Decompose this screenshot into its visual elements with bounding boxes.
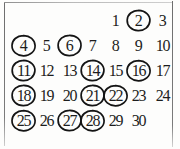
calendar-day-cell[interactable]: 12 bbox=[35, 58, 58, 83]
calendar-week-row: 252627282930 bbox=[6, 108, 171, 133]
calendar-day-cell[interactable]: 30 bbox=[127, 108, 150, 133]
calendar-day-number: 13 bbox=[58, 58, 81, 83]
calendar-day-cell[interactable]: 28 bbox=[81, 108, 104, 133]
calendar-day-number: 25 bbox=[12, 108, 35, 133]
calendar-day-number: 29 bbox=[104, 108, 127, 133]
calendar-day-cell[interactable]: 15 bbox=[104, 58, 127, 83]
calendar-day-cell[interactable]: 8 bbox=[104, 33, 127, 58]
calendar-day-cell[interactable]: 11 bbox=[12, 58, 35, 83]
page-rule-top bbox=[4, 2, 173, 3]
calendar-week-row: 18192021222324 bbox=[6, 83, 171, 108]
calendar-day-cell[interactable]: 5 bbox=[35, 33, 58, 58]
calendar-day-cell[interactable]: 10 bbox=[151, 33, 174, 58]
calendar-day-number: 20 bbox=[58, 83, 81, 108]
calendar-day-number: 15 bbox=[104, 58, 127, 83]
calendar-day-number: 30 bbox=[127, 108, 150, 133]
calendar-day-number: 23 bbox=[127, 83, 150, 108]
calendar-day-number: 27 bbox=[58, 108, 81, 133]
calendar-day-cell[interactable]: 17 bbox=[151, 58, 174, 83]
calendar-day-number: 10 bbox=[151, 33, 174, 58]
calendar-day-number: 9 bbox=[127, 33, 150, 58]
calendar-week-row: 45678910 bbox=[6, 33, 171, 58]
calendar-day-cell[interactable]: 4 bbox=[12, 33, 35, 58]
calendar-day-number: 6 bbox=[58, 33, 81, 58]
calendar-day-cell[interactable]: 3 bbox=[151, 8, 174, 33]
calendar-day-cell[interactable]: 26 bbox=[35, 108, 58, 133]
calendar-week-row: 11121314151617 bbox=[6, 58, 171, 83]
calendar-day-number: 11 bbox=[12, 58, 35, 83]
calendar-day-number: 8 bbox=[104, 33, 127, 58]
calendar-day-cell[interactable]: 29 bbox=[104, 108, 127, 133]
calendar-day-number: 14 bbox=[81, 58, 104, 83]
calendar-week-row: 123 bbox=[6, 8, 171, 33]
calendar-day-cell[interactable]: 1 bbox=[104, 8, 127, 33]
calendar-day-cell[interactable]: 6 bbox=[58, 33, 81, 58]
calendar-day-cell[interactable]: 16 bbox=[127, 58, 150, 83]
calendar-day-cell[interactable]: 27 bbox=[58, 108, 81, 133]
calendar-day-cell[interactable]: 14 bbox=[81, 58, 104, 83]
calendar-day-cell[interactable]: 22 bbox=[104, 83, 127, 108]
calendar-day-number: 24 bbox=[151, 83, 174, 108]
calendar-empty-cell bbox=[81, 8, 104, 33]
calendar-empty-cell bbox=[58, 8, 81, 33]
calendar-day-number: 3 bbox=[151, 8, 174, 33]
page-rule-left bbox=[4, 2, 5, 146]
calendar-day-cell[interactable]: 20 bbox=[58, 83, 81, 108]
calendar-day-cell[interactable]: 23 bbox=[127, 83, 150, 108]
calendar-day-number: 5 bbox=[35, 33, 58, 58]
calendar-day-number: 28 bbox=[81, 108, 104, 133]
calendar-day-cell[interactable]: 9 bbox=[127, 33, 150, 58]
calendar-empty-cell bbox=[12, 8, 35, 33]
calendar-day-cell[interactable]: 21 bbox=[81, 83, 104, 108]
calendar-day-number: 1 bbox=[104, 8, 127, 33]
calendar-grid: 1234567891011121314151617181920212223242… bbox=[6, 8, 171, 144]
calendar-day-cell[interactable]: 19 bbox=[35, 83, 58, 108]
calendar-day-number: 12 bbox=[35, 58, 58, 83]
calendar-day-cell[interactable]: 24 bbox=[151, 83, 174, 108]
calendar-day-cell[interactable]: 13 bbox=[58, 58, 81, 83]
calendar-day-cell[interactable]: 2 bbox=[127, 8, 150, 33]
calendar-day-cell[interactable]: 25 bbox=[12, 108, 35, 133]
calendar-day-cell[interactable]: 7 bbox=[81, 33, 104, 58]
calendar-day-number: 26 bbox=[35, 108, 58, 133]
calendar-day-number: 4 bbox=[12, 33, 35, 58]
calendar-day-number: 7 bbox=[81, 33, 104, 58]
calendar-day-number: 2 bbox=[127, 8, 150, 33]
calendar-day-cell[interactable]: 18 bbox=[12, 83, 35, 108]
calendar-day-number: 17 bbox=[151, 58, 174, 83]
calendar-day-number: 19 bbox=[35, 83, 58, 108]
calendar-day-number: 21 bbox=[81, 83, 104, 108]
calendar-day-number: 16 bbox=[127, 58, 150, 83]
calendar-day-number: 18 bbox=[12, 83, 35, 108]
scanned-calendar-page: 1234567891011121314151617181920212223242… bbox=[0, 0, 180, 149]
calendar-empty-cell bbox=[35, 8, 58, 33]
calendar-day-number: 22 bbox=[104, 83, 127, 108]
